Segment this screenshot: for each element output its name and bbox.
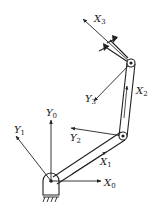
robot-arm-diagram: X0 Y0 Y1 X1 Y2 X2 X3 Y3 bbox=[0, 0, 156, 218]
label-y1: Y1 bbox=[14, 125, 25, 137]
label-y3: Y3 bbox=[85, 94, 96, 106]
joint-3-pin bbox=[127, 59, 135, 67]
y1-axis bbox=[16, 136, 51, 181]
x3-axis bbox=[83, 19, 131, 63]
label-x3: X3 bbox=[94, 14, 106, 26]
label-x2: X2 bbox=[136, 86, 148, 98]
label-y0: Y0 bbox=[46, 108, 57, 120]
diagram-drawing bbox=[0, 0, 156, 218]
link-2 bbox=[119, 63, 135, 137]
joint-2-pin bbox=[119, 132, 127, 140]
label-y2: Y2 bbox=[70, 133, 81, 145]
joint-base bbox=[49, 179, 53, 183]
label-x1: X1 bbox=[100, 157, 112, 169]
link-1 bbox=[53, 132, 125, 184]
ground-hatching bbox=[43, 197, 59, 202]
label-x0: X0 bbox=[104, 178, 116, 190]
